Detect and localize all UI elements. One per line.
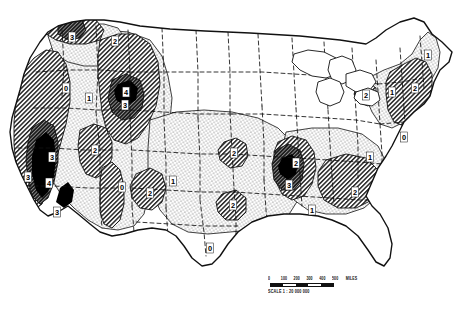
contour-label-kansas-1: 1: [171, 177, 175, 186]
contour-label-greatbasin-2: 2: [93, 146, 97, 155]
scale-caption: SCALE 1 : 20 000 000: [268, 289, 309, 296]
scale-tick: 0: [268, 276, 270, 281]
contour-label-nw-pacific-3: 3: [70, 33, 74, 42]
map-scale: 0100200300400500MILES SCALE 1 : 20 000 0…: [268, 276, 348, 300]
contour-label-texas-0: 0: [208, 244, 212, 253]
scale-segment: [296, 284, 308, 286]
contour-label-columbia-0: 0: [64, 84, 68, 93]
contour-label-greatlakes-2: 2: [364, 91, 368, 100]
us-contour-map: 320431343320212202312102112: [0, 0, 475, 317]
scale-tick: 100: [281, 276, 287, 281]
scale-segment: [308, 284, 320, 286]
scale-bar-graphic: [270, 283, 334, 287]
scale-segment: [321, 284, 333, 286]
contour-label-midatl-0: 0: [402, 133, 406, 142]
scale-tick: 300: [306, 276, 312, 281]
scale-tick: 200: [294, 276, 300, 281]
contour-label-ozark-2: 2: [232, 149, 236, 158]
contour-label-gulf-1: 1: [310, 206, 314, 215]
contour-label-rockies-mt-3: 3: [123, 101, 127, 110]
map-svg: 320431343320212202312102112: [0, 0, 475, 317]
scale-unit-label: MILES: [346, 276, 357, 281]
contour-label-appalach-3: 3: [287, 181, 291, 190]
contour-label-southeast-2: 2: [353, 188, 357, 197]
contour-label-colo-plateau-0: 0: [120, 183, 124, 192]
contour-label-nw-pacific-2: 2: [113, 37, 117, 46]
scale-tick: 500: [332, 276, 338, 281]
contour-label-newengland-2: 2: [413, 84, 417, 93]
contour-label-texas-2: 2: [231, 201, 235, 210]
contour-label-socal-edge-3: 3: [55, 208, 59, 217]
contour-label-sierra-3: 3: [50, 153, 54, 162]
scale-tick: 400: [319, 276, 325, 281]
contour-label-idaho-1: 1: [87, 94, 91, 103]
contour-label-carolina-1: 1: [368, 153, 372, 162]
contour-label-rockies-co-2: 2: [148, 189, 152, 198]
contour-label-maine-1: 1: [426, 51, 430, 60]
scale-segment: [271, 284, 283, 286]
contour-label-nystate-1: 1: [390, 88, 394, 97]
scale-segment: [283, 284, 295, 286]
contour-label-tennessee-2: 2: [294, 159, 298, 168]
contour-label-socal-3: 3: [26, 173, 30, 182]
